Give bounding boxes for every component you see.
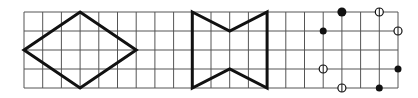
grid-lines	[24, 12, 398, 88]
filled-dot	[320, 28, 327, 35]
filled-dot	[337, 8, 346, 17]
filled-dot	[376, 85, 383, 92]
filled-dot	[395, 66, 402, 73]
grid-diagram	[0, 0, 418, 98]
